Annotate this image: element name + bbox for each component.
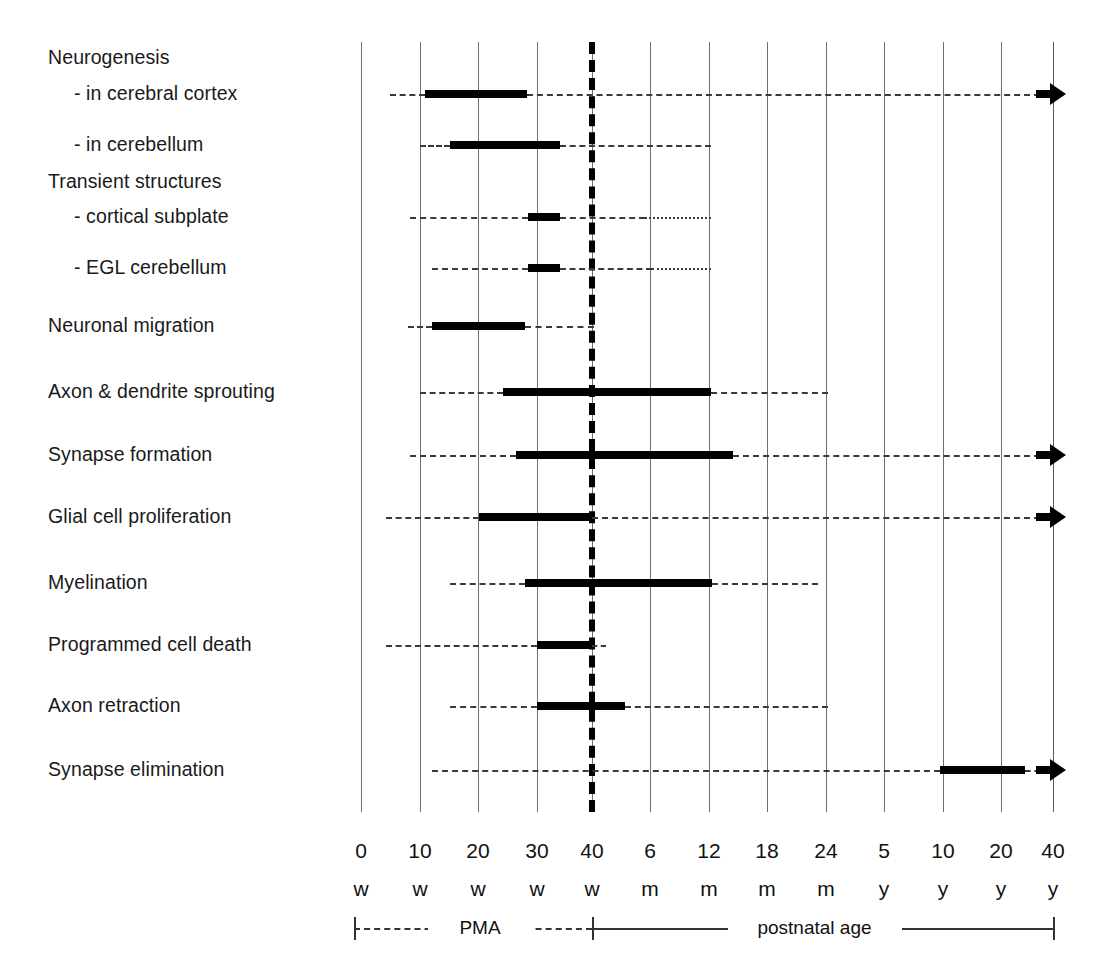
gridline-24m (826, 42, 827, 812)
segment-dash-8-0 (410, 455, 516, 457)
gridline-18m (767, 42, 768, 812)
segment-solid-8-1 (516, 451, 733, 459)
segment-solid-13-1 (940, 766, 1025, 774)
segment-dash-7-2 (711, 392, 828, 394)
segment-dash-9-0 (386, 517, 479, 519)
x-tick-unit-6: m (679, 878, 739, 899)
segment-dash-10-2 (712, 583, 818, 585)
x-tick-unit-1: w (390, 878, 450, 899)
row-label-7: Axon & dendrite sprouting (48, 382, 275, 402)
segment-solid-12-1 (537, 702, 625, 710)
segment-solid-4-1 (528, 213, 560, 221)
gridline-10w (420, 42, 421, 812)
segment-dash-10-0 (450, 583, 525, 585)
segment-dash-1-2 (527, 94, 1040, 96)
row-label-8: Synapse formation (48, 445, 212, 465)
row-label-10: Myelination (48, 573, 148, 593)
x-tick-unit-2: w (448, 878, 508, 899)
x-tick-unit-8: m (796, 878, 856, 899)
gridline-40y (1053, 42, 1054, 812)
gridline-20y (1001, 42, 1002, 812)
gridline-30w (537, 42, 538, 812)
legend-label-pma: PMA (428, 918, 532, 937)
segment-dash-11-0 (386, 645, 537, 647)
segment-dash-12-0 (450, 706, 537, 708)
row-label-1: - in cerebral cortex (74, 84, 237, 104)
x-tick-number-12: 40 (1023, 840, 1083, 861)
legend-cap-end (1053, 917, 1055, 940)
continues-arrow-icon-9 (1050, 506, 1066, 528)
x-tick-number-6: 12 (679, 840, 739, 861)
segment-dot-4-3 (645, 217, 711, 219)
x-tick-number-0: 0 (331, 840, 391, 861)
segment-dash-5-2 (560, 268, 652, 270)
segment-solid-1-1 (425, 90, 527, 98)
x-tick-unit-3: w (507, 878, 567, 899)
developmental-timeline-chart: Neurogenesis- in cerebral cortex- in cer… (0, 0, 1097, 977)
gridline-12m (709, 42, 710, 812)
segment-dash-6-2 (525, 326, 594, 328)
x-tick-number-1: 10 (390, 840, 450, 861)
continues-arrow-icon-8 (1050, 444, 1066, 466)
row-label-0: Neurogenesis (48, 48, 170, 68)
segment-dash-4-0 (410, 217, 528, 219)
x-tick-number-2: 20 (448, 840, 508, 861)
x-tick-number-7: 18 (737, 840, 797, 861)
x-tick-unit-10: y (913, 878, 973, 899)
continues-arrow-icon-13 (1050, 759, 1066, 781)
x-tick-unit-7: m (737, 878, 797, 899)
x-tick-unit-11: y (971, 878, 1031, 899)
x-tick-number-8: 24 (796, 840, 856, 861)
continues-arrow-icon-1 (1050, 83, 1066, 105)
row-label-3: Transient structures (48, 172, 222, 192)
x-tick-number-11: 20 (971, 840, 1031, 861)
row-label-5: - EGL cerebellum (74, 258, 227, 278)
segment-dash-2-2 (560, 145, 711, 147)
segment-dash-1-0 (390, 94, 425, 96)
segment-dash-5-0 (432, 268, 528, 270)
segment-solid-10-1 (525, 579, 712, 587)
segment-solid-5-1 (528, 264, 560, 272)
x-tick-number-3: 30 (507, 840, 567, 861)
segment-solid-6-1 (432, 322, 525, 330)
row-label-9: Glial cell proliferation (48, 507, 231, 527)
row-label-6: Neuronal migration (48, 316, 215, 336)
gridline-0w (361, 42, 362, 812)
x-tick-number-9: 5 (854, 840, 914, 861)
segment-dash-9-2 (592, 517, 1040, 519)
row-label-4: - cortical subplate (74, 207, 229, 227)
row-label-12: Axon retraction (48, 696, 181, 716)
x-tick-number-4: 40 (562, 840, 622, 861)
segment-dash-6-0 (408, 326, 432, 328)
segment-solid-11-1 (537, 641, 592, 649)
row-label-2: - in cerebellum (74, 135, 203, 155)
row-label-11: Programmed cell death (48, 635, 252, 655)
x-tick-unit-5: m (620, 878, 680, 899)
x-tick-unit-12: y (1023, 878, 1083, 899)
x-tick-unit-4: w (562, 878, 622, 899)
legend-label-postnatal-age: postnatal age (728, 918, 902, 937)
segment-dash-12-2 (625, 706, 828, 708)
x-tick-number-10: 10 (913, 840, 973, 861)
gridline-10y (943, 42, 944, 812)
segment-dash-8-2 (733, 455, 1040, 457)
segment-solid-7-1 (503, 388, 711, 396)
segment-solid-9-1 (479, 513, 592, 521)
x-tick-unit-0: w (331, 878, 391, 899)
row-label-13: Synapse elimination (48, 760, 224, 780)
segment-dash-2-0 (420, 145, 450, 147)
x-tick-number-5: 6 (620, 840, 680, 861)
segment-dot-5-3 (652, 268, 711, 270)
gridline-20w (478, 42, 479, 812)
segment-dash-11-2 (592, 645, 606, 647)
segment-dash-4-2 (560, 217, 645, 219)
term-birth-dashed-marker (589, 42, 595, 812)
x-tick-unit-9: y (854, 878, 914, 899)
gridline-6m (650, 42, 651, 812)
gridline-5y (884, 42, 885, 812)
segment-dash-13-0 (432, 770, 940, 772)
segment-dash-7-0 (420, 392, 503, 394)
segment-solid-2-1 (450, 141, 560, 149)
